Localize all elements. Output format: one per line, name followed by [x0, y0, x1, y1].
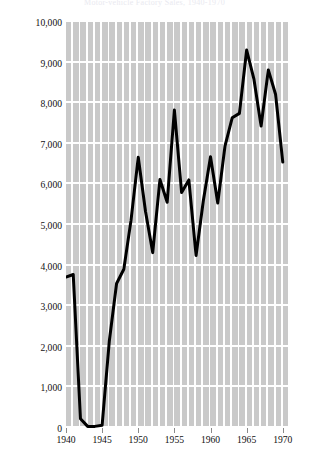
y-tick-label: 1,000: [2, 382, 62, 393]
x-axis-tick-labels: 1940 1945 1950 1955 1960 1965 1970: [0, 434, 309, 454]
x-tick-mark: [211, 428, 212, 433]
y-tick-label: 2,000: [2, 341, 62, 352]
x-tick-mark: [283, 428, 284, 433]
x-tick-mark: [138, 428, 139, 433]
plot-area: [66, 22, 290, 428]
chart-figure: Motor-vehicle Factory Sales, 1940-1970 M…: [0, 0, 309, 461]
y-tick-label: 9,000: [2, 57, 62, 68]
x-tick-label: 1970: [260, 434, 306, 445]
x-tick-mark: [102, 428, 103, 433]
y-tick-label: 0: [2, 423, 62, 434]
x-tick-mark: [247, 428, 248, 433]
y-tick-label: 10,000: [2, 17, 62, 28]
y-axis-tick-labels: 10,000 9,000 8,000 7,000 6,000 5,000 4,0…: [0, 0, 62, 461]
y-tick-label: 6,000: [2, 179, 62, 190]
y-tick-label: 7,000: [2, 138, 62, 149]
y-tick-label: 4,000: [2, 260, 62, 271]
y-tick-label: 5,000: [2, 220, 62, 231]
x-tick-mark: [174, 428, 175, 433]
data-line-series: [66, 22, 290, 428]
y-tick-label: 3,000: [2, 301, 62, 312]
x-tick-mark: [66, 428, 67, 433]
y-tick-label: 8,000: [2, 98, 62, 109]
